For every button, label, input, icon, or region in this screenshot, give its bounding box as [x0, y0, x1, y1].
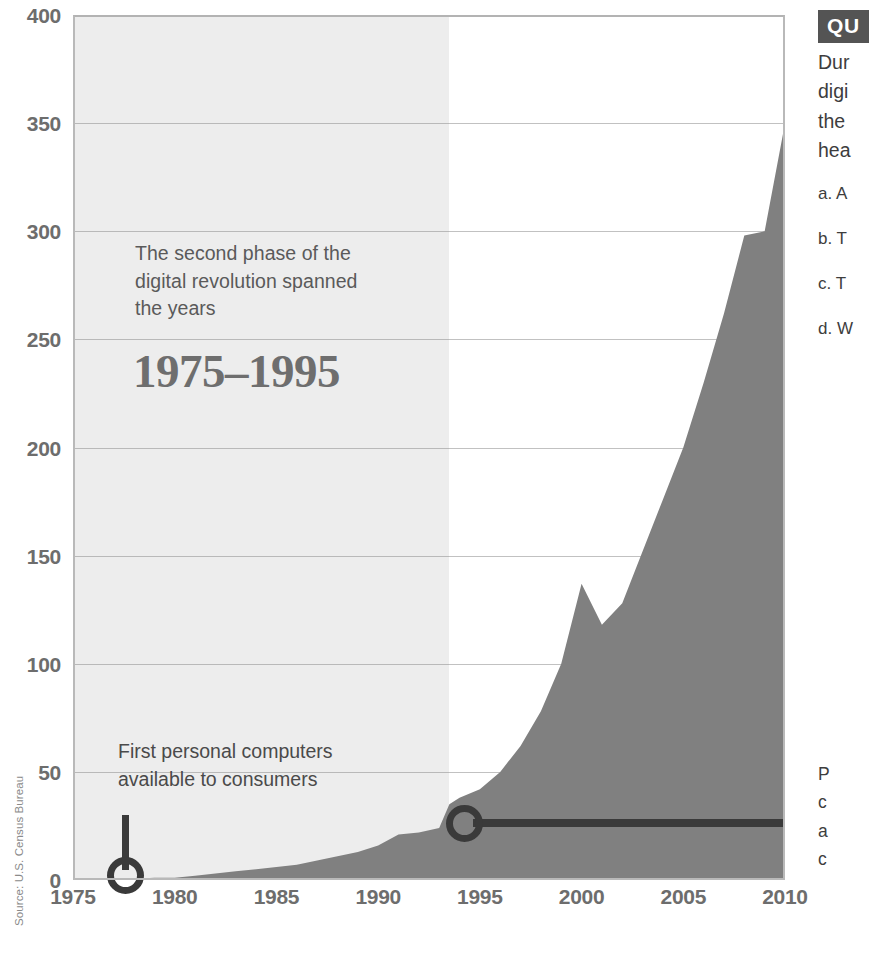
- y-axis-tick: 400: [27, 5, 61, 26]
- y-axis-tick: 100: [27, 653, 61, 674]
- y-axis: 050100150200250300350400: [0, 0, 73, 968]
- callout-stem-band-end: [473, 819, 785, 827]
- side-annotation-line3: a: [818, 817, 870, 845]
- question-stem: Dur digi the hea: [818, 48, 870, 165]
- question-choice[interactable]: c. T: [818, 275, 870, 292]
- x-axis-tick: 1985: [254, 886, 300, 907]
- question-stem-line1: Dur: [818, 48, 870, 77]
- question-choice[interactable]: a. A: [818, 185, 870, 202]
- y-axis-tick: 50: [38, 761, 61, 782]
- x-axis-tick: 2005: [661, 886, 707, 907]
- side-annotation-line1: P: [818, 760, 870, 788]
- chart-page: Source: U.S. Census Bureau 0501001502002…: [0, 0, 870, 968]
- x-axis-tick: 2010: [762, 886, 808, 907]
- plot-area: The second phase of the digital revoluti…: [73, 15, 785, 880]
- callout-markers: [73, 15, 785, 880]
- question-choice[interactable]: d. W: [818, 320, 870, 337]
- y-axis-tick: 350: [27, 113, 61, 134]
- question-panel: QU Dur digi the hea a. Ab. Tc. Td. W P c…: [812, 0, 870, 968]
- y-axis-tick: 300: [27, 221, 61, 242]
- y-axis-tick: 250: [27, 329, 61, 350]
- question-badge: QU: [818, 10, 869, 43]
- y-axis-tick: 200: [27, 437, 61, 458]
- x-axis-tick: 1980: [152, 886, 198, 907]
- question-choice[interactable]: b. T: [818, 230, 870, 247]
- question-stem-line4: hea: [818, 136, 870, 165]
- callout-ring-band-end: [446, 805, 483, 842]
- y-axis-tick: 150: [27, 545, 61, 566]
- question-stem-line3: the: [818, 107, 870, 136]
- x-axis-tick: 1990: [355, 886, 401, 907]
- side-annotation-line4: c: [818, 845, 870, 873]
- x-axis-tick: 1975: [50, 886, 96, 907]
- question-choices: a. Ab. Tc. Td. W: [818, 185, 870, 365]
- x-axis-tick: 1995: [457, 886, 503, 907]
- x-axis-tick: 2000: [559, 886, 605, 907]
- callout-ring-pc: [107, 857, 144, 894]
- side-annotation: P c a c: [818, 760, 870, 873]
- x-axis: 19751980198519901995200020052010: [73, 886, 785, 926]
- question-stem-line2: digi: [818, 77, 870, 106]
- side-annotation-line2: c: [818, 788, 870, 816]
